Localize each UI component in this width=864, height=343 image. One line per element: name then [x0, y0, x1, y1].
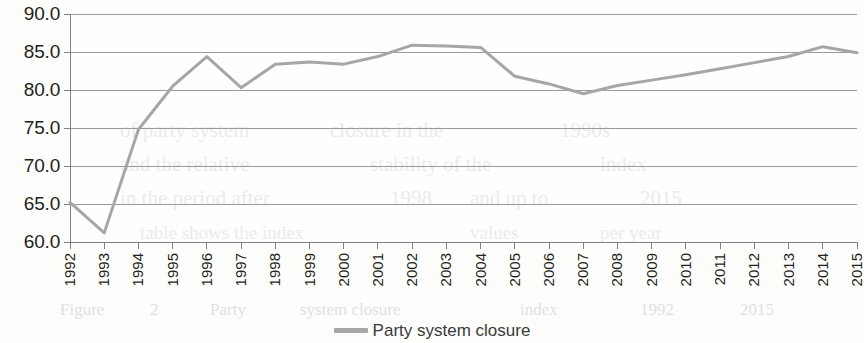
y-axis-ticks — [64, 14, 70, 242]
x-axis-tick-label: 1993 — [96, 253, 111, 286]
x-axis-tick-label: 1996 — [199, 253, 214, 286]
x-axis-tick-label: 2011 — [712, 253, 727, 285]
x-axis-tick-label: 2013 — [781, 253, 796, 286]
x-axis-tick-label: 2007 — [575, 253, 590, 286]
plot-area: 90.085.080.075.070.065.060.0199219931994… — [0, 0, 864, 343]
x-axis-tick-label: 2000 — [336, 253, 351, 286]
x-axis-tick-label: 1992 — [62, 253, 77, 286]
x-axis-tick-label: 2006 — [541, 253, 556, 286]
x-axis-tick-label: 1997 — [233, 253, 248, 286]
x-axis-tick-label: 1999 — [302, 253, 317, 286]
x-axis-tick-label: 2012 — [746, 253, 761, 286]
y-axis-tick-label: 65.0 — [4, 194, 60, 213]
y-axis-tick-label: 80.0 — [4, 80, 60, 99]
legend-entry-label: Party system closure — [373, 322, 531, 339]
x-axis-tick-label: 2010 — [678, 253, 693, 286]
y-axis-tick-label: 85.0 — [4, 42, 60, 61]
x-axis-tick-label: 2009 — [644, 253, 659, 286]
x-axis-tick-label: 2003 — [438, 253, 453, 286]
y-axis-tick-label: 75.0 — [4, 118, 60, 137]
chart-legend: Party system closure — [0, 322, 864, 339]
y-axis-tick-label: 90.0 — [4, 4, 60, 23]
chart-container: of party systemclosure in the1990sand th… — [0, 0, 864, 343]
x-axis-tick-label: 2015 — [849, 253, 864, 286]
x-axis-tick-label: 2002 — [404, 253, 419, 286]
x-axis-tick-label: 2004 — [473, 253, 488, 286]
x-axis-tick-label: 1995 — [165, 253, 180, 286]
x-axis-tick-label: 1998 — [267, 253, 282, 286]
x-axis-tick-label: 2014 — [815, 253, 830, 286]
x-axis-tick-label: 2008 — [609, 253, 624, 286]
y-axis-tick-label: 60.0 — [4, 232, 60, 251]
x-axis-tick-label: 2001 — [370, 253, 385, 286]
line-chart-svg — [0, 0, 864, 343]
x-axis-tick-label: 1994 — [130, 253, 145, 286]
x-axis-ticks — [70, 242, 857, 249]
legend-line-swatch-icon — [334, 328, 368, 333]
y-axis-tick-label: 70.0 — [4, 156, 60, 175]
x-axis-tick-label: 2005 — [507, 253, 522, 286]
